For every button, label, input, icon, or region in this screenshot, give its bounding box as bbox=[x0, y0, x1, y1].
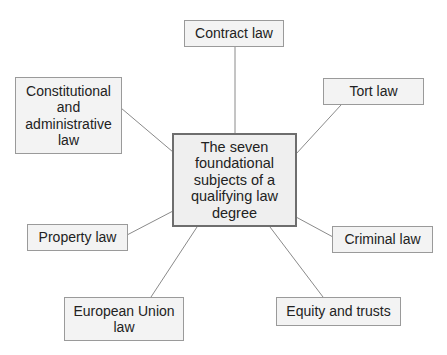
subject-box-european-union-law: European Union law bbox=[64, 297, 184, 341]
subject-box-property-law: Property law bbox=[27, 224, 128, 251]
subject-box-tort-law: Tort law bbox=[323, 78, 424, 105]
subject-box-contract-law: Contract law bbox=[184, 20, 284, 47]
subject-box-criminal-law: Criminal law bbox=[332, 226, 433, 253]
connector-criminal bbox=[296, 217, 333, 237]
connector-eu bbox=[151, 227, 197, 297]
connector-tort bbox=[296, 105, 341, 154]
connector-constitutional bbox=[121, 108, 173, 152]
connector-equity bbox=[270, 227, 323, 297]
subject-box-constitutional-administrative-law: Constitutional and administrative law bbox=[15, 77, 122, 154]
subject-box-equity-and-trusts: Equity and trusts bbox=[276, 297, 401, 326]
connector-property bbox=[127, 211, 173, 235]
central-topic-box: The seven foundational subjects of a qua… bbox=[172, 133, 297, 227]
